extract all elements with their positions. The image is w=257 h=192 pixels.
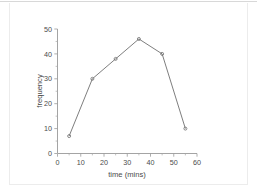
x-axis-group: 0102030405060 — [56, 154, 202, 168]
y-axis-tick-labels: 01020304050 — [44, 25, 52, 159]
x-tick-label: 0 — [56, 158, 60, 167]
chart-svg: 01020304050 0102030405060 time (mins) fr… — [0, 0, 257, 192]
data-series-group — [68, 37, 187, 137]
x-tick-label: 20 — [100, 158, 108, 167]
y-tick-label: 40 — [44, 50, 52, 59]
x-tick-label: 60 — [193, 158, 201, 167]
x-tick-label: 30 — [123, 158, 131, 167]
y-tick-label: 0 — [48, 149, 52, 158]
frequency-polygon-chart: 01020304050 0102030405060 time (mins) fr… — [0, 0, 257, 192]
y-tick-label: 50 — [44, 25, 52, 34]
screenshot-root: 01020304050 0102030405060 time (mins) fr… — [0, 0, 257, 192]
y-axis-group: 01020304050 — [44, 25, 58, 159]
y-tick-label: 10 — [44, 124, 52, 133]
x-tick-label: 40 — [147, 158, 155, 167]
x-axis-ticks — [58, 154, 198, 157]
x-axis-tick-labels: 0102030405060 — [56, 158, 202, 167]
y-tick-label: 20 — [44, 99, 52, 108]
series-line-frequency — [69, 39, 185, 136]
series-markers-frequency — [68, 37, 187, 137]
y-axis-title: frequency — [35, 74, 44, 108]
y-tick-label: 30 — [44, 74, 52, 83]
x-tick-label: 50 — [170, 158, 178, 167]
x-axis-title: time (mins) — [108, 170, 146, 179]
x-tick-label: 10 — [77, 158, 85, 167]
